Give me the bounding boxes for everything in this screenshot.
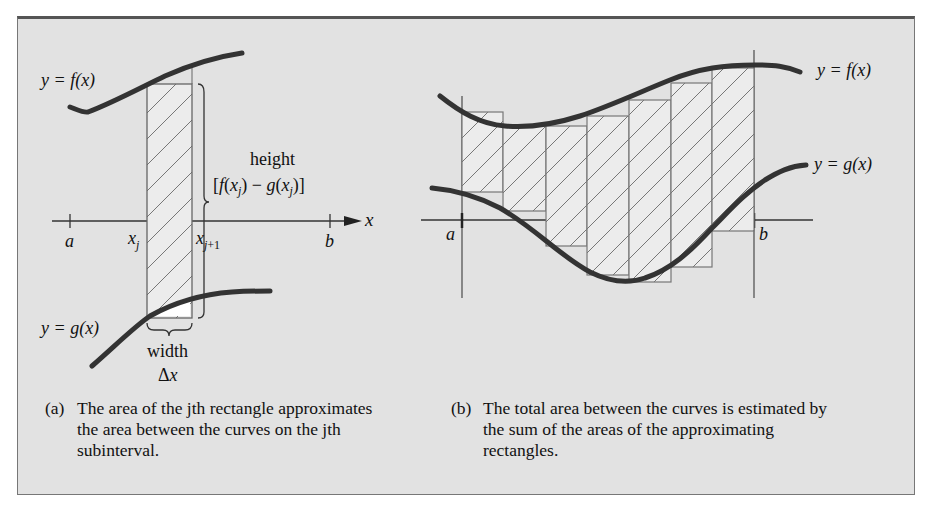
rectangle-2 xyxy=(503,126,546,211)
caption-a: (a) The area of the jth rectangle approx… xyxy=(45,398,375,461)
rectangle-5 xyxy=(629,100,671,282)
rectangle-6 xyxy=(671,83,712,267)
height-formula: [f(xj) − g(xj)] xyxy=(213,175,305,198)
label-f-a: y = f(x) xyxy=(39,70,95,91)
delta-x-label: Δx xyxy=(158,365,178,385)
panel-a: y = f(x) y = g(x) height [f(xj) − g(xj)]… xyxy=(39,53,374,385)
caption-b: (b) The total area between the curves is… xyxy=(451,398,841,461)
label-f-b: y = f(x) xyxy=(815,60,871,81)
panel-b: y = f(x) y = g(x) a b xyxy=(421,50,872,298)
caption-a-tag: (a) xyxy=(45,398,64,419)
width-label: width xyxy=(147,341,188,361)
tick-label-a: a xyxy=(65,231,74,251)
height-brace xyxy=(198,84,209,318)
tick-label-xj1: xj+1 xyxy=(195,228,220,252)
rectangle-4 xyxy=(587,116,629,275)
tick-label-xj: xj xyxy=(127,228,140,252)
x-axis-arrow-icon xyxy=(344,216,362,226)
label-g-b: y = g(x) xyxy=(812,154,872,175)
width-brace xyxy=(147,323,192,336)
axis-var-x: x xyxy=(364,209,374,230)
jth-rectangle xyxy=(147,84,192,318)
caption-b-text: The total area between the curves is est… xyxy=(483,398,841,461)
caption-b-tag: (b) xyxy=(451,398,471,419)
tick-label-b-b: b xyxy=(759,224,768,244)
tick-label-b: b xyxy=(325,231,334,251)
rectangle-3 xyxy=(546,126,587,246)
height-label: height xyxy=(250,149,295,169)
caption-a-text: The area of the jth rectangle approximat… xyxy=(77,398,375,461)
label-g-a: y = g(x) xyxy=(39,318,99,339)
tick-label-a-b: a xyxy=(446,224,455,244)
